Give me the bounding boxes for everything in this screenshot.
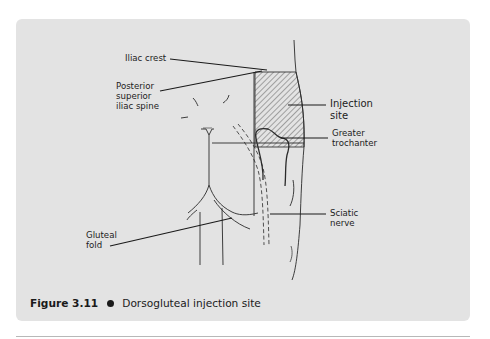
psis-leader (160, 71, 262, 91)
gluteal-fold-leader (110, 218, 232, 246)
bullet-icon (107, 300, 114, 307)
label-gluteal-fold: Gluteal fold (86, 230, 117, 250)
injection-zone (255, 72, 304, 147)
label-iliac-crest: Iliac crest (125, 53, 166, 63)
anatomy-illustration (0, 0, 490, 339)
label-posterior-superior-iliac-spine: Posterior superior iliac spine (116, 81, 159, 112)
bottom-divider (16, 336, 470, 337)
label-greater-trochanter: Greater trochanter (332, 128, 377, 148)
label-injection-site: Injection site (330, 98, 373, 121)
iliac-crest-leader (170, 59, 267, 70)
label-sciatic-nerve: Sciatic nerve (330, 208, 358, 228)
figure-number: Figure 3.11 (30, 297, 98, 309)
figure-title: Dorsogluteal injection site (122, 297, 261, 309)
figure-caption: Figure 3.11 Dorsogluteal injection site (30, 295, 261, 311)
